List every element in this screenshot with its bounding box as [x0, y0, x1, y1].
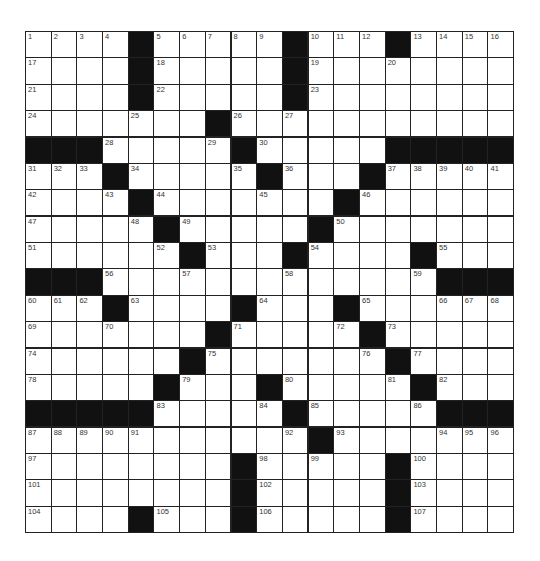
answer-cell[interactable] — [52, 58, 77, 83]
answer-cell[interactable] — [180, 507, 205, 532]
answer-cell[interactable] — [206, 58, 231, 83]
answer-cell[interactable] — [488, 243, 513, 268]
answer-cell[interactable] — [334, 243, 359, 268]
answer-cell[interactable]: 57 — [180, 269, 205, 294]
answer-cell[interactable] — [463, 322, 488, 347]
answer-cell[interactable]: 49 — [180, 217, 205, 242]
answer-cell[interactable]: 104 — [26, 507, 51, 532]
answer-cell[interactable] — [386, 111, 411, 136]
answer-cell[interactable] — [386, 243, 411, 268]
answer-cell[interactable] — [463, 480, 488, 505]
answer-cell[interactable] — [386, 85, 411, 110]
answer-cell[interactable] — [257, 428, 282, 453]
answer-cell[interactable]: 106 — [257, 507, 282, 532]
answer-cell[interactable] — [437, 190, 462, 215]
answer-cell[interactable] — [103, 111, 128, 136]
answer-cell[interactable]: 43 — [103, 190, 128, 215]
answer-cell[interactable] — [77, 507, 102, 532]
answer-cell[interactable] — [334, 85, 359, 110]
answer-cell[interactable] — [180, 428, 205, 453]
answer-cell[interactable] — [411, 428, 436, 453]
answer-cell[interactable]: 68 — [488, 296, 513, 321]
answer-cell[interactable] — [129, 269, 154, 294]
answer-cell[interactable]: 45 — [257, 190, 282, 215]
answer-cell[interactable] — [180, 85, 205, 110]
answer-cell[interactable] — [386, 190, 411, 215]
answer-cell[interactable]: 97 — [26, 454, 51, 479]
answer-cell[interactable] — [360, 454, 385, 479]
answer-cell[interactable] — [180, 401, 205, 426]
answer-cell[interactable] — [386, 269, 411, 294]
answer-cell[interactable]: 50 — [334, 217, 359, 242]
answer-cell[interactable] — [257, 322, 282, 347]
answer-cell[interactable] — [232, 428, 257, 453]
answer-cell[interactable] — [411, 296, 436, 321]
answer-cell[interactable] — [411, 85, 436, 110]
answer-cell[interactable] — [334, 138, 359, 163]
answer-cell[interactable] — [154, 164, 179, 189]
answer-cell[interactable] — [463, 58, 488, 83]
answer-cell[interactable] — [334, 480, 359, 505]
answer-cell[interactable] — [283, 507, 308, 532]
answer-cell[interactable]: 86 — [411, 401, 436, 426]
answer-cell[interactable]: 75 — [206, 349, 231, 374]
answer-cell[interactable] — [257, 58, 282, 83]
answer-cell[interactable]: 92 — [283, 428, 308, 453]
answer-cell[interactable] — [232, 243, 257, 268]
answer-cell[interactable] — [360, 375, 385, 400]
answer-cell[interactable] — [488, 480, 513, 505]
answer-cell[interactable]: 90 — [103, 428, 128, 453]
answer-cell[interactable] — [77, 111, 102, 136]
answer-cell[interactable] — [488, 58, 513, 83]
answer-cell[interactable]: 28 — [103, 138, 128, 163]
answer-cell[interactable] — [309, 296, 334, 321]
answer-cell[interactable]: 93 — [334, 428, 359, 453]
answer-cell[interactable] — [283, 217, 308, 242]
answer-cell[interactable]: 39 — [437, 164, 462, 189]
answer-cell[interactable] — [463, 349, 488, 374]
answer-cell[interactable] — [411, 58, 436, 83]
answer-cell[interactable]: 40 — [463, 164, 488, 189]
answer-cell[interactable] — [154, 111, 179, 136]
answer-cell[interactable]: 52 — [154, 243, 179, 268]
answer-cell[interactable] — [283, 190, 308, 215]
answer-cell[interactable] — [411, 190, 436, 215]
answer-cell[interactable]: 88 — [52, 428, 77, 453]
answer-cell[interactable] — [103, 480, 128, 505]
answer-cell[interactable]: 61 — [52, 296, 77, 321]
answer-cell[interactable]: 36 — [283, 164, 308, 189]
answer-cell[interactable]: 65 — [360, 296, 385, 321]
answer-cell[interactable] — [232, 217, 257, 242]
answer-cell[interactable]: 44 — [154, 190, 179, 215]
answer-cell[interactable] — [206, 296, 231, 321]
answer-cell[interactable] — [257, 243, 282, 268]
answer-cell[interactable]: 101 — [26, 480, 51, 505]
answer-cell[interactable] — [232, 85, 257, 110]
answer-cell[interactable] — [206, 401, 231, 426]
answer-cell[interactable]: 24 — [26, 111, 51, 136]
answer-cell[interactable] — [77, 349, 102, 374]
answer-cell[interactable] — [283, 480, 308, 505]
answer-cell[interactable] — [309, 190, 334, 215]
answer-cell[interactable] — [129, 375, 154, 400]
answer-cell[interactable] — [154, 138, 179, 163]
answer-cell[interactable] — [52, 190, 77, 215]
answer-cell[interactable] — [437, 111, 462, 136]
answer-cell[interactable] — [232, 190, 257, 215]
answer-cell[interactable]: 83 — [154, 401, 179, 426]
answer-cell[interactable] — [360, 401, 385, 426]
answer-cell[interactable]: 62 — [77, 296, 102, 321]
answer-cell[interactable] — [488, 322, 513, 347]
answer-cell[interactable] — [386, 217, 411, 242]
answer-cell[interactable] — [463, 375, 488, 400]
answer-cell[interactable]: 102 — [257, 480, 282, 505]
answer-cell[interactable] — [180, 111, 205, 136]
answer-cell[interactable] — [129, 480, 154, 505]
answer-cell[interactable]: 71 — [232, 322, 257, 347]
answer-cell[interactable]: 32 — [52, 164, 77, 189]
answer-cell[interactable] — [488, 349, 513, 374]
answer-cell[interactable] — [309, 164, 334, 189]
answer-cell[interactable] — [283, 322, 308, 347]
answer-cell[interactable]: 96 — [488, 428, 513, 453]
answer-cell[interactable]: 18 — [154, 58, 179, 83]
